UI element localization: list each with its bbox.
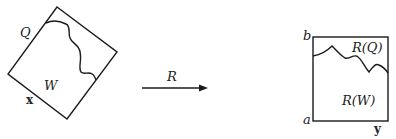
label-x: x: [26, 93, 34, 107]
label-R: R: [166, 69, 177, 84]
arrow-head-icon: [199, 85, 208, 92]
rotated-square: [8, 7, 117, 119]
left-figure: Q W x: [8, 7, 117, 119]
mapping-arrow: R: [142, 69, 208, 92]
label-RQ: R(Q): [351, 40, 383, 55]
label-b: b: [303, 28, 311, 43]
label-W: W: [44, 78, 59, 93]
label-a: a: [303, 112, 311, 127]
label-y: y: [373, 122, 382, 136]
label-Q: Q: [20, 25, 31, 40]
diagram-canvas: Q W x R b a y R(Q) R(W): [0, 0, 396, 139]
label-RW: R(W): [341, 93, 375, 108]
right-figure: b a y R(Q) R(W): [303, 28, 388, 136]
